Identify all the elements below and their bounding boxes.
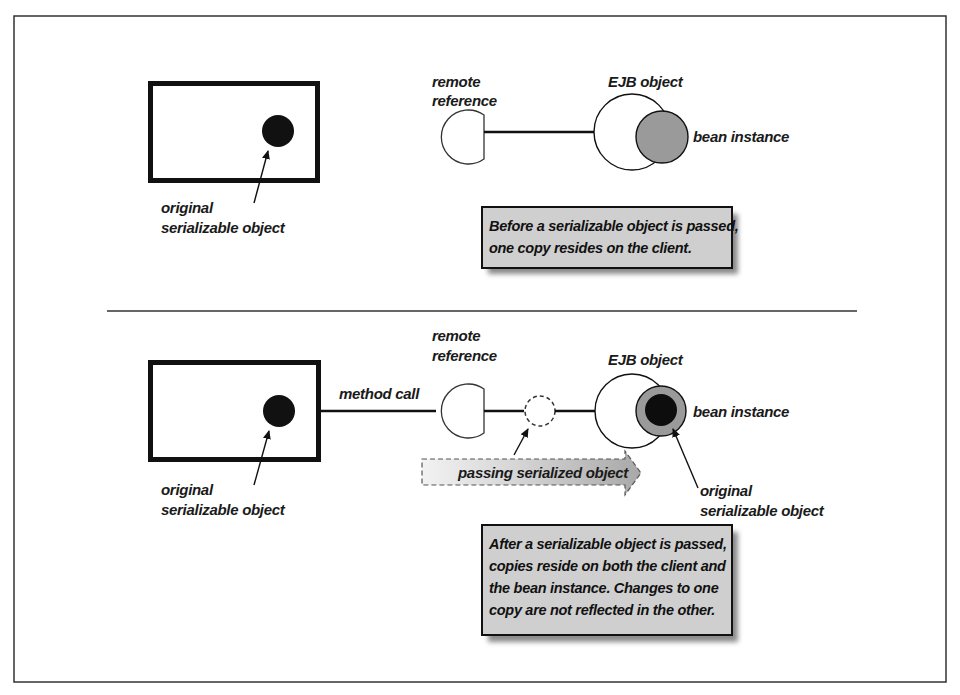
remote-reference-label: remote	[432, 73, 480, 90]
note-text-line-1: Before a serializable object is passed,	[489, 218, 738, 234]
remote-reference-label: remote	[432, 327, 480, 344]
method-call-label: method call	[339, 385, 420, 402]
note-text-line-2: copies reside on both the client and	[489, 558, 727, 574]
original-object-label-2: serializable object	[161, 219, 286, 236]
serialized-copy-dashed-circle	[525, 396, 555, 426]
note-text-line-3: the bean instance. Changes to one	[489, 580, 719, 596]
remote-reference-stub-icon	[441, 384, 484, 438]
serializable-object-dot	[262, 115, 294, 147]
bean-instance-label: bean instance	[693, 403, 789, 420]
bean-instance-label: bean instance	[693, 128, 789, 145]
pointer-arrow	[673, 429, 698, 488]
remote-reference-label-2: reference	[432, 92, 497, 109]
ejb-object-label: EJB object	[608, 73, 684, 90]
bean-object-label: original	[700, 482, 753, 499]
top-panel: original serializable object remote refe…	[151, 73, 790, 274]
bean-serializable-object-dot	[645, 394, 677, 426]
note-text-line-2: one copy resides on the client.	[489, 240, 692, 256]
original-object-label: original	[161, 481, 214, 498]
remote-reference-stub-icon	[441, 110, 484, 164]
note-text-line-4: copy are not reflected in the other.	[489, 602, 715, 618]
bottom-panel: original serializable object method call…	[151, 327, 825, 642]
serialization-diagram: original serializable object remote refe…	[0, 0, 960, 695]
note-box	[482, 207, 732, 268]
pointer-arrow	[514, 429, 528, 455]
original-object-label-2: serializable object	[161, 501, 286, 518]
serializable-object-dot	[263, 395, 295, 427]
bean-instance-circle	[636, 111, 688, 163]
ejb-object-label: EJB object	[608, 351, 684, 368]
bean-object-label-2: serializable object	[700, 502, 825, 519]
passing-serialized-object-label: passing serialized object	[457, 464, 629, 481]
note-text-line-1: After a serializable object is passed,	[488, 536, 727, 552]
original-object-label: original	[161, 199, 214, 216]
remote-reference-label-2: reference	[432, 347, 497, 364]
